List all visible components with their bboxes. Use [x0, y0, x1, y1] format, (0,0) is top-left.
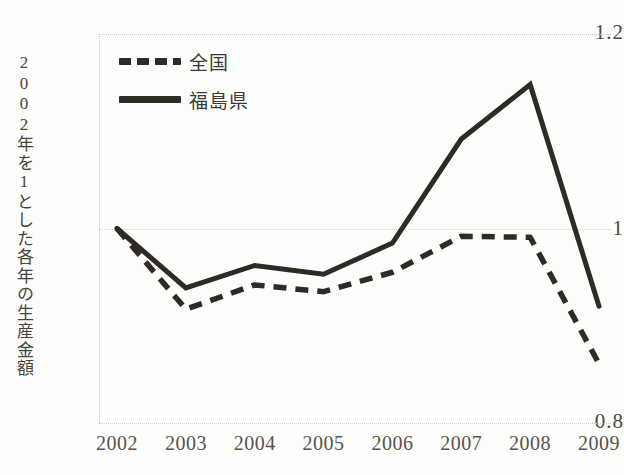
x-tick-label-2004: 2004: [220, 432, 290, 455]
line-series-national: [117, 229, 599, 364]
x-tick-label-2008: 2008: [495, 432, 565, 455]
y-axis-title: 2002年を1とした各年の生産金額: [16, 53, 33, 378]
x-tick-label-2006: 2006: [357, 432, 427, 455]
x-tick-label-2009: 2009: [564, 432, 624, 455]
plot-area: 全国 福島県: [99, 34, 611, 423]
legend-label-national: 全国: [189, 48, 229, 75]
x-tick-label-2005: 2005: [289, 432, 359, 455]
x-tick-label-2007: 2007: [426, 432, 496, 455]
legend-swatch-solid-icon: [119, 96, 181, 103]
y-axis-title-container: 2002年を1とした各年の生産金額: [6, 0, 42, 430]
legend: 全国 福島県: [119, 42, 349, 118]
legend-item-fukushima: 福島県: [119, 80, 349, 118]
plot-border-bottom: [99, 423, 611, 424]
legend-swatch-dashed-icon: [119, 58, 181, 65]
chart-figure: 2002年を1とした各年の生産金額 1.2 1 0.8 全国 福島県 20022…: [0, 0, 624, 475]
x-tick-label-2002: 2002: [82, 432, 152, 455]
legend-label-fukushima: 福島県: [189, 86, 249, 113]
x-tick-label-2003: 2003: [151, 432, 221, 455]
legend-item-national: 全国: [119, 42, 349, 80]
x-axis-tick-labels: 20022003200420052006200720082009: [99, 432, 611, 466]
